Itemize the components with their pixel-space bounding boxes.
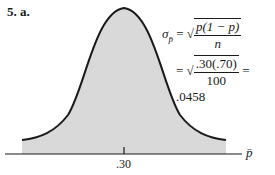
x-axis-label: p̄	[246, 145, 253, 161]
mean-tick-label: .30	[116, 157, 131, 172]
formula-line2: = √ .30(.70) 100 = .0458	[176, 55, 275, 105]
formula-line1: σp̄ = √ p(1 − p) n	[162, 18, 241, 52]
